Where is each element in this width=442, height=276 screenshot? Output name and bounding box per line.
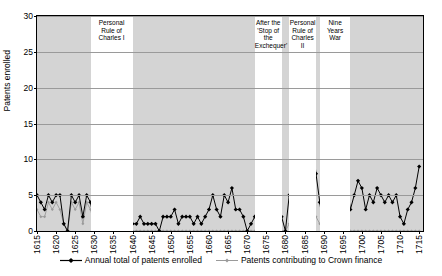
- data-point: [230, 186, 234, 190]
- x-tick-label: 1665: [223, 235, 233, 254]
- data-point: [398, 215, 402, 219]
- gridline: [37, 195, 423, 196]
- gridline: [37, 52, 423, 53]
- data-point: [230, 230, 233, 232]
- gridline: [37, 124, 423, 125]
- gridline: [37, 16, 423, 17]
- data-point: [387, 230, 390, 232]
- x-tick-mark: [94, 231, 95, 234]
- data-point: [138, 215, 142, 219]
- data-point: [134, 222, 138, 226]
- data-point: [195, 215, 199, 219]
- data-point: [364, 207, 368, 211]
- data-point: [203, 215, 207, 219]
- period-label-line: Years: [320, 27, 351, 35]
- x-tick-label: 1640: [128, 235, 138, 254]
- data-point: [173, 230, 176, 232]
- x-tick-mark: [209, 231, 210, 234]
- y-tick-label: 30: [24, 11, 33, 21]
- x-tick-mark: [362, 231, 363, 234]
- data-point: [360, 186, 364, 190]
- x-tick-mark: [133, 231, 134, 234]
- x-tick-label: 1630: [89, 235, 99, 254]
- x-tick-mark: [343, 231, 344, 234]
- data-point: [372, 230, 375, 232]
- period-label-line: War: [320, 34, 351, 42]
- period-label-2: PersonalRule ofCharles II: [289, 19, 316, 49]
- data-point: [153, 222, 157, 226]
- data-point: [218, 215, 222, 219]
- legend-item-1: Patents contributing to Crown finance: [216, 255, 382, 265]
- x-tick-label: 1650: [166, 235, 176, 254]
- y-tick-label: 5: [28, 190, 33, 200]
- x-tick-label: 1645: [147, 235, 157, 254]
- data-point: [241, 215, 245, 219]
- data-point: [200, 230, 203, 232]
- plot-area: PersonalRule ofCharles IAfter the'Stop o…: [36, 15, 424, 232]
- data-point: [391, 230, 394, 232]
- x-tick-mark: [56, 231, 57, 234]
- data-point: [143, 230, 146, 232]
- legend-marker-1: [216, 256, 238, 265]
- data-point: [192, 222, 196, 226]
- y-tick-mark: [34, 124, 37, 125]
- data-point: [250, 230, 253, 232]
- x-tick-mark: [152, 231, 153, 234]
- x-tick-mark: [113, 231, 114, 234]
- data-point: [172, 207, 176, 211]
- x-tick-mark: [305, 231, 306, 234]
- data-point: [207, 207, 211, 211]
- y-tick-mark: [34, 52, 37, 53]
- y-tick-mark: [34, 159, 37, 160]
- x-tick-label: 1635: [108, 235, 118, 254]
- x-tick-label: 1715: [414, 235, 424, 254]
- period-label-line: Personal: [91, 19, 133, 27]
- x-tick-label: 1625: [70, 235, 80, 254]
- y-tick-label: 10: [24, 154, 33, 164]
- gridline: [37, 159, 423, 160]
- x-tick-label: 1695: [338, 235, 348, 254]
- data-point: [376, 230, 379, 232]
- chart-legend: Annual total of patents enrolledPatents …: [0, 255, 442, 265]
- data-point: [402, 230, 405, 232]
- x-tick-mark: [171, 231, 172, 234]
- x-tick-label: 1660: [204, 235, 214, 254]
- data-point: [196, 230, 199, 232]
- data-point: [383, 230, 386, 232]
- data-point: [169, 215, 173, 219]
- x-tick-label: 1680: [280, 235, 290, 254]
- period-label-line: Nine: [320, 19, 351, 27]
- data-point: [406, 230, 409, 232]
- x-tick-mark: [75, 231, 76, 234]
- data-point: [223, 230, 226, 232]
- data-point: [139, 230, 142, 232]
- x-tick-label: 1615: [32, 235, 42, 254]
- y-tick-label: 20: [24, 83, 33, 93]
- data-point: [154, 230, 157, 232]
- data-point: [406, 207, 410, 211]
- data-point: [180, 215, 184, 219]
- data-point: [249, 222, 253, 226]
- data-point: [211, 230, 214, 232]
- legend-label: Patents contributing to Crown finance: [241, 255, 382, 265]
- gridline: [37, 88, 423, 89]
- data-point: [181, 230, 184, 232]
- y-tick-label: 15: [24, 119, 33, 129]
- data-point: [395, 230, 398, 232]
- x-tick-label: 1670: [242, 235, 252, 254]
- x-tick-label: 1700: [357, 235, 367, 254]
- period-label-1: After the'Stop oftheExchequer': [255, 19, 282, 49]
- y-tick-mark: [34, 195, 37, 196]
- data-point: [226, 200, 230, 204]
- data-point: [176, 222, 180, 226]
- data-point: [409, 200, 413, 204]
- data-point: [238, 230, 241, 232]
- y-tick-mark: [34, 88, 37, 89]
- data-point: [146, 222, 150, 226]
- data-point: [371, 200, 375, 204]
- period-label-line: 'Stop of: [255, 27, 282, 35]
- data-point: [417, 164, 421, 168]
- data-point: [215, 230, 218, 232]
- data-point: [215, 207, 219, 211]
- x-tick-mark: [190, 231, 191, 234]
